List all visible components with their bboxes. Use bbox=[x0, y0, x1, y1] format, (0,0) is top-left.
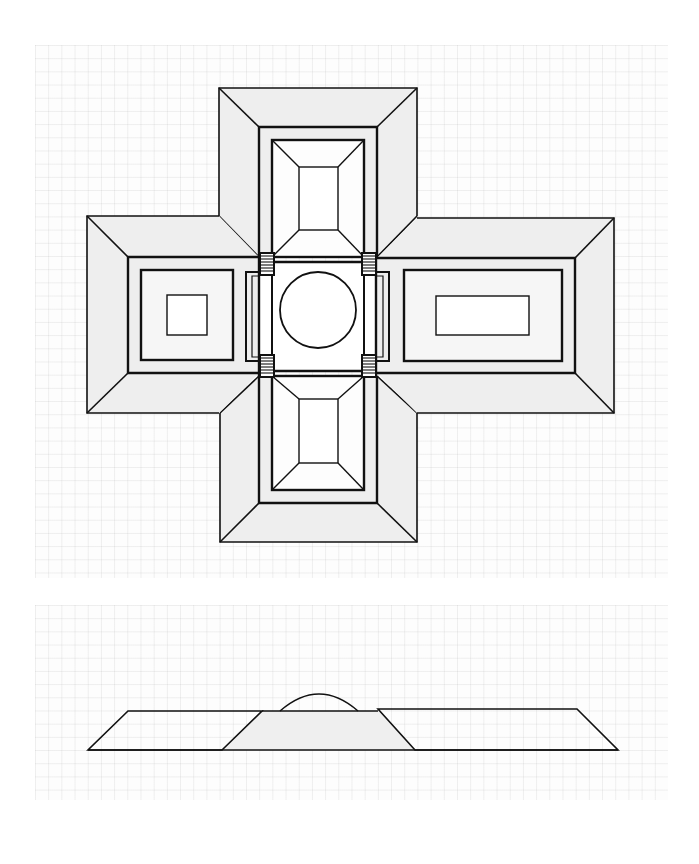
east-wing-light bbox=[436, 296, 529, 335]
south-wing-light bbox=[299, 399, 338, 463]
stair-se bbox=[362, 355, 376, 377]
elevation-right-block bbox=[378, 709, 618, 750]
elevation-view bbox=[88, 694, 618, 750]
drawing-canvas bbox=[0, 0, 699, 864]
south-wing bbox=[220, 376, 417, 542]
elevation-dome bbox=[280, 694, 358, 711]
stair-nw bbox=[260, 253, 274, 275]
rotunda-circle bbox=[280, 272, 356, 348]
north-wing bbox=[219, 88, 417, 257]
east-wing bbox=[377, 218, 614, 413]
north-wing-light bbox=[299, 167, 338, 230]
west-wing-light bbox=[167, 295, 207, 335]
plan-view bbox=[87, 88, 614, 542]
stair-ne bbox=[362, 253, 376, 275]
stair-sw bbox=[260, 355, 274, 377]
west-wing bbox=[87, 216, 259, 413]
